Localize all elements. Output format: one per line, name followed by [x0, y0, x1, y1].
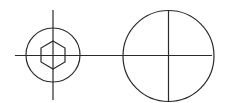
technical-drawing [0, 0, 226, 103]
